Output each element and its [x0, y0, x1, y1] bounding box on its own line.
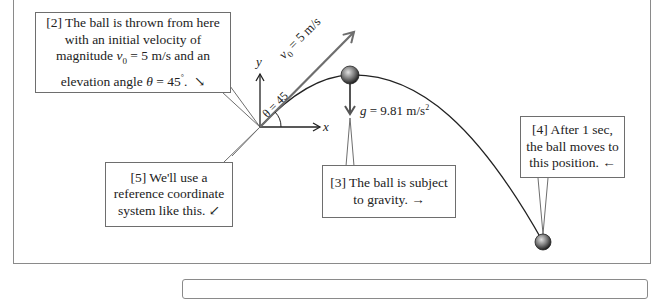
callout-5-line-2: reference coordinate — [110, 186, 228, 203]
callout-5-line-3: system like this. ↙ — [110, 203, 228, 220]
callout-3-line-1: [3] The ball is subject — [327, 175, 451, 192]
callout-2-line-2: with an initial velocity of — [40, 32, 226, 49]
callout-5-line-1: [5] We'll use a — [110, 170, 228, 187]
gravity-value: = 9.81 m/s — [367, 103, 426, 118]
gravity-label: g = 9.81 m/s2 — [360, 103, 429, 119]
gravity-exponent: 2 — [425, 103, 429, 112]
callout-initial-velocity: [2] The ball is thrown from here with an… — [35, 12, 231, 93]
x-axis-label: x — [323, 119, 329, 135]
callout-2-line-3: magnitude v0 = 5 m/s and an — [40, 48, 226, 69]
callout-4-line-2: the ball moves to — [525, 139, 620, 156]
callout-final-position: [4] After 1 sec, the ball moves to this … — [520, 116, 625, 178]
callout-2-line-1: [2] The ball is thrown from here — [40, 15, 226, 32]
callout-4-line-3: this position. ← — [525, 155, 620, 172]
callout-coordinate-system: [5] We'll use a reference coordinate sys… — [105, 162, 233, 227]
callout-3-line-2: to gravity. → — [327, 192, 451, 209]
callout-gravity: [3] The ball is subject to gravity. → — [322, 165, 456, 218]
callout-4-line-1: [4] After 1 sec, — [525, 122, 620, 139]
arrow-southeast-icon: ↘ — [194, 73, 205, 88]
next-panel-frame — [182, 279, 648, 299]
ball-final — [535, 234, 551, 250]
callout-2-line-4: elevation angle θ = 45°. ↘ — [40, 70, 226, 90]
ball-apex — [341, 66, 359, 84]
y-axis-label: y — [256, 54, 262, 70]
